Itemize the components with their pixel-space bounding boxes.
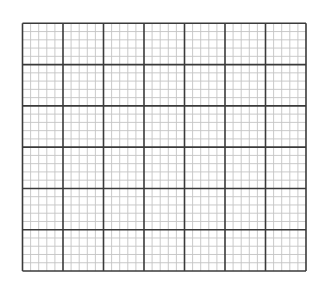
major-grid-lines — [23, 23, 307, 271]
graph-paper-grid — [0, 0, 322, 290]
